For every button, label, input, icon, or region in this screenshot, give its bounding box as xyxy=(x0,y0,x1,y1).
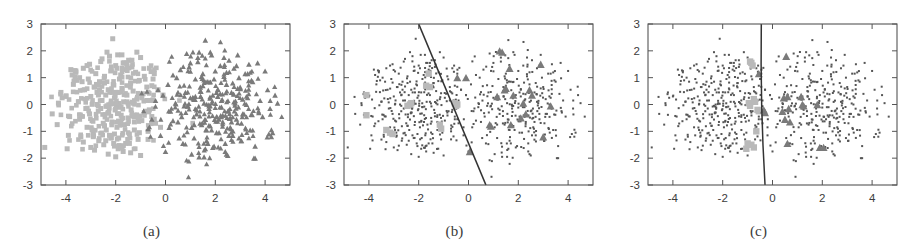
data-point-dot xyxy=(543,88,545,90)
data-point-dot xyxy=(467,98,469,100)
data-point-triangle xyxy=(182,101,187,106)
data-point-square xyxy=(94,116,99,121)
data-point-triangle xyxy=(211,76,217,81)
data-point-dot xyxy=(741,80,743,82)
data-point-dot xyxy=(755,126,757,128)
panel-a-plot: -4-20243210-1-2-3 xyxy=(0,0,303,210)
data-point-dot xyxy=(727,121,729,123)
data-point-dot xyxy=(491,108,493,110)
data-point-dot xyxy=(391,110,393,112)
data-point-dot xyxy=(552,71,554,73)
data-point-triangle xyxy=(196,104,201,109)
data-point-square xyxy=(152,67,157,72)
data-point-dot xyxy=(570,89,572,91)
data-point-dot xyxy=(540,122,542,124)
data-point-dot xyxy=(560,62,562,64)
data-point-dot xyxy=(793,53,795,55)
data-point-square xyxy=(85,106,90,111)
figure-root: -4-20243210-1-2-3 (a) -4-20243210-1-2-3 … xyxy=(0,0,911,242)
data-point-dot xyxy=(710,82,712,84)
data-point-dot xyxy=(440,104,442,106)
data-point-dot xyxy=(390,78,392,80)
x-tick-label: 2 xyxy=(819,192,825,204)
data-point-dot xyxy=(433,152,435,154)
data-point-dot xyxy=(414,121,416,123)
data-point-dot xyxy=(861,145,863,147)
data-point-square xyxy=(363,112,369,118)
x-tick-label: 4 xyxy=(869,192,876,204)
data-point-dot xyxy=(483,112,485,114)
data-point-dot xyxy=(739,90,741,92)
data-point-dot xyxy=(451,109,453,111)
data-point-triangle xyxy=(272,93,278,98)
data-point-dot xyxy=(512,157,514,159)
data-point-dot xyxy=(540,87,542,89)
data-point-dot xyxy=(460,89,462,91)
data-point-dot xyxy=(425,150,427,152)
data-point-square xyxy=(83,100,88,105)
y-tick-label: 2 xyxy=(27,45,33,57)
data-point-dot xyxy=(416,133,418,135)
data-point-dot xyxy=(475,120,477,122)
data-point-dot xyxy=(540,54,542,56)
data-point-dot xyxy=(853,132,855,134)
data-point-dot xyxy=(743,134,745,136)
data-point-dot xyxy=(836,113,838,115)
data-point-dot xyxy=(446,114,448,116)
data-point-dot xyxy=(483,94,485,96)
data-point-dot xyxy=(719,38,721,40)
data-point-dot xyxy=(742,71,744,73)
data-point-dot xyxy=(721,109,723,111)
data-point-dot xyxy=(743,114,745,116)
y-tick-label: -2 xyxy=(326,152,336,164)
data-point-square xyxy=(136,79,141,84)
data-point-dot xyxy=(668,97,670,99)
data-point-dot xyxy=(427,128,429,130)
data-point-square xyxy=(66,114,71,119)
data-point-dot xyxy=(423,114,425,116)
data-point-dot xyxy=(859,129,861,131)
data-point-dot xyxy=(689,148,691,150)
data-point-dot xyxy=(535,116,537,118)
data-point-dot xyxy=(747,57,749,59)
data-point-dot xyxy=(434,112,436,114)
data-point-dot xyxy=(484,116,486,118)
data-point-dot xyxy=(347,146,349,148)
data-point-triangle xyxy=(191,135,197,140)
data-point-square xyxy=(138,153,143,158)
data-point-dot xyxy=(509,103,511,105)
data-point-dot xyxy=(680,80,682,82)
data-point-dot xyxy=(722,91,724,93)
data-point-dot xyxy=(453,123,455,125)
data-point-dot xyxy=(485,66,487,68)
data-point-dot xyxy=(794,105,796,107)
data-point-dot xyxy=(526,73,528,75)
data-point-dot xyxy=(836,108,838,110)
data-point-dot xyxy=(849,98,851,100)
data-point-dot xyxy=(374,123,376,125)
data-point-dot xyxy=(808,54,810,56)
data-point-dot xyxy=(713,105,715,107)
data-point-triangle xyxy=(227,106,232,111)
data-point-dot xyxy=(720,97,722,99)
data-point-dot xyxy=(404,132,406,134)
data-point-square xyxy=(363,92,369,98)
data-point-dot xyxy=(477,102,479,104)
data-point-dot xyxy=(456,94,458,96)
data-point-dot xyxy=(501,105,503,107)
data-point-dot xyxy=(729,150,731,152)
data-point-dot xyxy=(406,82,408,84)
data-point-dot xyxy=(451,67,453,69)
data-point-dot xyxy=(816,97,818,99)
data-point-square xyxy=(158,125,163,130)
data-point-dot xyxy=(379,79,381,81)
panel-b-caption: (b) xyxy=(303,223,606,240)
data-point-dot xyxy=(442,115,444,117)
data-point-dot xyxy=(490,105,492,107)
data-point-dot xyxy=(499,109,501,111)
data-point-dot xyxy=(698,120,700,122)
data-point-dot xyxy=(414,124,416,126)
data-point-dot xyxy=(738,63,740,65)
data-point-dot xyxy=(406,125,408,127)
data-point-dot xyxy=(738,115,740,117)
